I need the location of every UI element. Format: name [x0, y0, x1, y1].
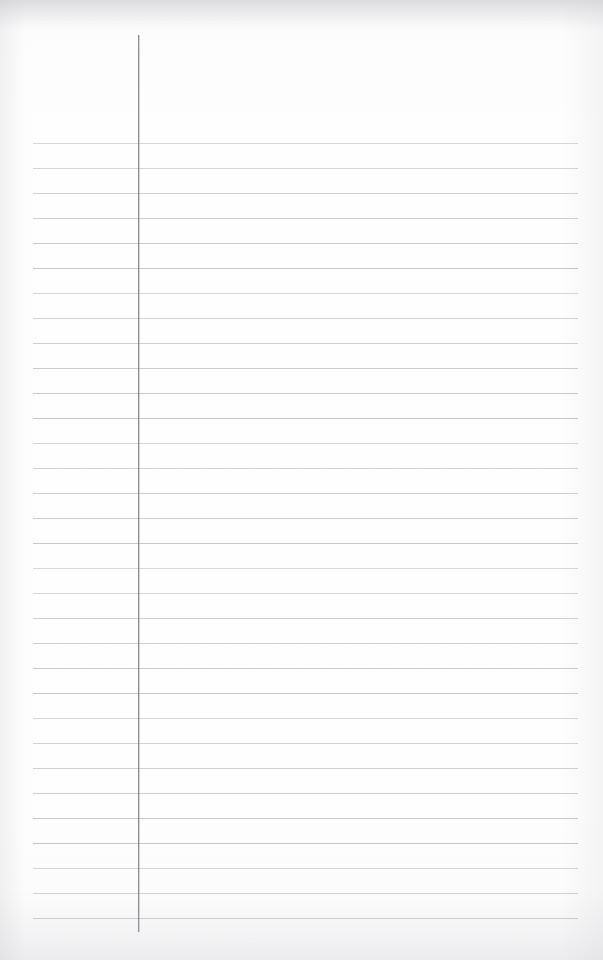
lined-paper-page — [0, 0, 603, 960]
vertical-margin-line — [138, 35, 139, 932]
writing-area[interactable] — [140, 140, 576, 920]
